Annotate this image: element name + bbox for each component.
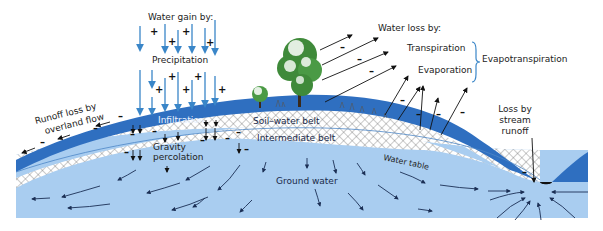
svg-text:+: + [206,37,214,48]
svg-text:–: – [124,147,129,158]
stream-loss-label-3: runoff [502,126,530,136]
svg-text:+: + [182,26,190,37]
evapotranspiration-label: Evapotranspiration [482,54,568,64]
ground-water-label: Ground water [276,176,338,186]
brace-icon [472,42,480,82]
svg-text:–: – [436,109,441,120]
svg-text:–: – [357,54,362,65]
water-gain-label: Water gain by: [148,12,213,22]
gravity-label-2: percolation [153,152,203,162]
evaporation-label: Evaporation [418,65,472,75]
svg-text:–: – [400,95,405,106]
svg-text:–: – [416,109,421,120]
svg-text:+: + [194,71,202,82]
svg-text:+: + [155,84,163,95]
water-loss-label: Water loss by: [378,23,441,33]
infiltration-label: Infiltration [158,115,205,125]
svg-text:–: – [236,127,241,138]
transpiration-label: Transpiration [406,43,465,53]
soil-water-belt-label: Soil–water belt [253,116,320,126]
svg-text:–: – [340,42,345,53]
svg-text:+: + [150,26,158,37]
svg-text:–: – [130,129,135,140]
svg-text:–: – [244,144,249,155]
svg-text:+: + [182,84,190,95]
stream-loss-label-2: stream [499,115,531,125]
svg-text:–: – [118,111,123,122]
intermediate-belt-label: Intermediate belt [257,133,336,143]
svg-text:+: + [168,71,176,82]
svg-text:–: – [369,66,374,77]
precipitation-label: Precipitation [152,55,208,65]
svg-text:–: – [522,167,527,178]
svg-text:+: + [168,36,176,47]
gravity-label-1: Gravity [153,142,187,152]
svg-text:–: – [93,123,98,134]
svg-text:–: – [40,137,45,148]
svg-text:–: – [460,107,465,118]
hydrologic-diagram: + + + + + + + + + Water gain by: Precipi… [0,0,603,231]
svg-text:+: + [218,84,226,95]
stream-loss-label-1: Loss by [498,104,532,114]
svg-text:–: – [152,126,157,137]
svg-text:–: – [200,135,205,146]
svg-text:–: – [225,133,230,144]
